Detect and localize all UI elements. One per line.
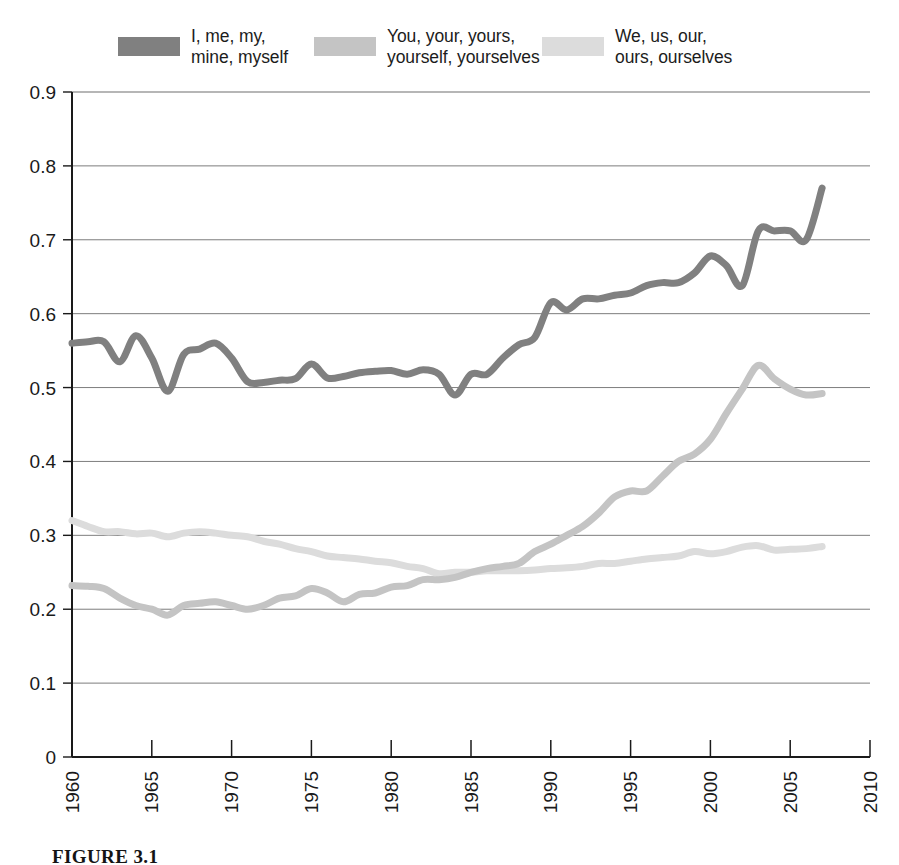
y-axis-tick-label: 0.3 <box>30 525 56 546</box>
chart-plot-area: 00.10.20.30.40.50.60.70.80.9 19601965197… <box>0 0 899 865</box>
x-axis-tick-label: 1990 <box>540 771 561 813</box>
y-axis-ticks <box>63 92 72 757</box>
x-axis-tick-label: 1970 <box>221 771 242 813</box>
y-axis-tick-label: 0.6 <box>30 304 56 325</box>
y-axis-tick-label: 0.7 <box>30 230 56 251</box>
series-line <box>72 365 822 615</box>
y-axis-tick-label: 0.1 <box>30 673 56 694</box>
series-lines <box>72 188 822 615</box>
x-axis-tick-label: 2000 <box>700 771 721 813</box>
x-axis-tick-label: 2010 <box>860 771 881 813</box>
series-line <box>72 188 822 395</box>
x-axis-tick-label: 1980 <box>381 771 402 813</box>
y-axis-tick-label: 0.2 <box>30 599 56 620</box>
x-axis-tick-label: 1975 <box>301 771 322 813</box>
x-axis-tick-labels: 1960196519701975198019851990199520002005… <box>62 771 881 813</box>
x-axis-tick-label: 2005 <box>780 771 801 813</box>
y-axis-tick-label: 0.4 <box>30 451 57 472</box>
x-axis-ticks <box>72 740 870 757</box>
y-axis-tick-label: 0.5 <box>30 378 56 399</box>
y-axis-tick-label: 0.8 <box>30 156 56 177</box>
gridlines <box>72 92 870 683</box>
x-axis-tick-label: 1985 <box>461 771 482 813</box>
figure-caption: FIGURE 3.1 <box>52 846 158 865</box>
y-axis-tick-label: 0 <box>45 747 56 768</box>
x-axis-tick-label: 1960 <box>62 771 83 813</box>
y-axis-tick-label: 0.9 <box>30 82 56 103</box>
x-axis-tick-label: 1995 <box>620 771 641 813</box>
y-axis-tick-labels: 00.10.20.30.40.50.60.70.80.9 <box>30 82 57 768</box>
x-axis-tick-label: 1965 <box>141 771 162 813</box>
line-chart-svg: 00.10.20.30.40.50.60.70.80.9 19601965197… <box>0 0 899 865</box>
series-line <box>72 521 822 574</box>
figure-container: I, me, my, mine, myself You, your, yours… <box>0 0 899 865</box>
